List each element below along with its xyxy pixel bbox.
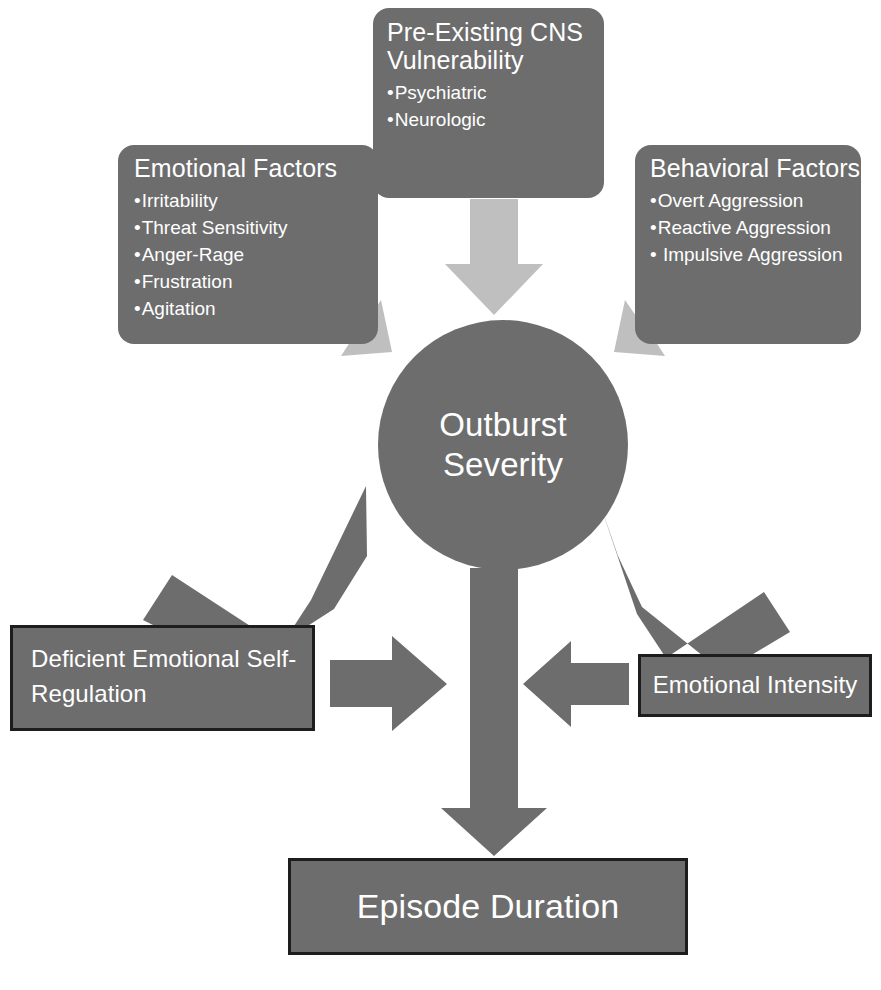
list-item: Threat Sensitivity xyxy=(134,215,378,242)
node-emotional-factors-bullet-list: Irritability Threat Sensitivity Anger-Ra… xyxy=(134,188,378,323)
node-pre-existing-cns-vulnerability[interactable]: Pre-Existing CNS Vulnerability Psychiatr… xyxy=(373,8,604,198)
list-item: Psychiatric xyxy=(387,80,604,107)
node-deficient-emotional-self-regulation[interactable]: Deficient Emotional Self- Regulation xyxy=(10,625,315,731)
node-behavioral-factors-title: Behavioral Factors xyxy=(650,154,861,182)
arrow-cns-to-outburst-icon xyxy=(445,199,543,315)
arrow-outburst-to-episode-icon xyxy=(441,568,547,856)
list-item: Overt Aggression xyxy=(650,188,861,215)
list-item: Frustration xyxy=(134,269,378,296)
node-cns-title: Pre-Existing CNS Vulnerability xyxy=(387,18,604,74)
node-outburst-severity[interactable]: Outburst Severity xyxy=(378,320,628,570)
arrow-intensity-to-outburst-icon xyxy=(597,495,790,672)
node-outburst-severity-title: Outburst Severity xyxy=(439,405,566,486)
diagram-canvas: Pre-Existing CNS Vulnerability Psychiatr… xyxy=(0,0,881,990)
node-episode-duration-title: Episode Duration xyxy=(357,887,619,925)
node-episode-duration[interactable]: Episode Duration xyxy=(288,858,688,955)
list-item: Anger-Rage xyxy=(134,242,378,269)
arrow-intensity-to-center-icon xyxy=(523,641,629,727)
node-emotional-factors-title: Emotional Factors xyxy=(134,154,378,182)
node-emotional-factors[interactable]: Emotional Factors Irritability Threat Se… xyxy=(118,145,378,344)
arrow-desr-to-center-icon xyxy=(330,636,447,731)
list-item: Irritability xyxy=(134,188,378,215)
node-cns-bullet-list: Psychiatric Neurologic xyxy=(387,80,604,134)
node-behavioral-factors-bullet-list: Overt Aggression Reactive Aggression Imp… xyxy=(650,188,861,269)
node-emotional-intensity-title: Emotional Intensity xyxy=(653,672,858,699)
node-behavioral-factors[interactable]: Behavioral Factors Overt Aggression Reac… xyxy=(635,145,861,344)
list-item: Reactive Aggression xyxy=(650,215,861,242)
list-item: Neurologic xyxy=(387,107,604,134)
list-item: Agitation xyxy=(134,296,378,323)
node-desr-title: Deficient Emotional Self- Regulation xyxy=(31,642,312,712)
list-item: Impulsive Aggression xyxy=(650,242,861,269)
node-emotional-intensity[interactable]: Emotional Intensity xyxy=(638,654,872,717)
